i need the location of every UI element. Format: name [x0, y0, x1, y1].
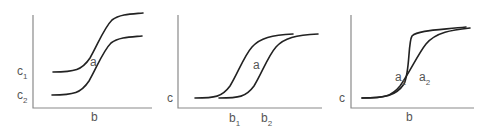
panel-3-curve-label-a1: a1 — [395, 70, 407, 87]
panel-1-y-label-c2: c2 — [17, 88, 28, 105]
panel-3-gradual-curve — [362, 28, 470, 98]
panel-3: a1 a2 c b — [339, 15, 474, 124]
panel-1-y-label-c1: c1 — [17, 64, 28, 81]
panel-2: a c b1 b2 — [167, 15, 322, 128]
panel-3-curve-label-a2: a2 — [419, 70, 431, 87]
panel-3-axes — [351, 15, 474, 108]
panel-2-right-curve — [219, 34, 318, 98]
panel-3-x-label: b — [406, 110, 413, 124]
panel-1-x-label: b — [91, 110, 98, 124]
panel-1: a c1 c2 b — [17, 13, 152, 124]
panel-2-axes — [178, 15, 322, 108]
panel-2-curve-label-a: a — [253, 58, 260, 72]
panel-2-x-label-b2: b2 — [261, 111, 273, 128]
panel-2-x-label-b1: b1 — [229, 111, 241, 128]
diagram-canvas: a c1 c2 b a c b1 b2 a1 a2 c b — [0, 0, 494, 132]
panel-2-y-label: c — [167, 91, 173, 105]
panel-3-y-label: c — [339, 91, 345, 105]
panel-1-curve-label-a: a — [90, 55, 97, 69]
panel-2-left-curve — [195, 34, 293, 98]
